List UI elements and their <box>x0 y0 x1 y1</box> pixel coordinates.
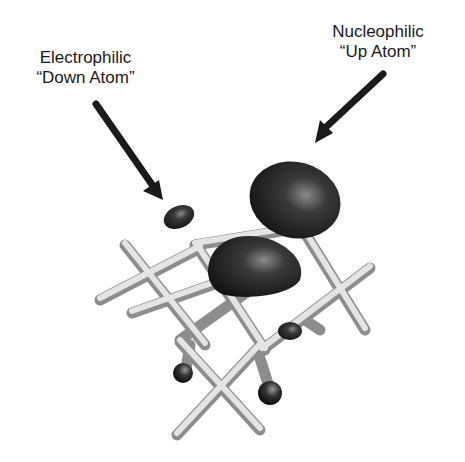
molecular-structure-diagram <box>0 0 465 462</box>
electrophilic-down-atom-lobe <box>160 200 198 233</box>
atom-ball-right <box>258 381 282 405</box>
small-lobe-right <box>278 322 302 340</box>
atom-ball-left <box>173 363 193 383</box>
arrow-to-up-atom <box>315 74 383 143</box>
arrow-to-down-atom <box>96 104 163 200</box>
central-lobe <box>208 236 301 297</box>
